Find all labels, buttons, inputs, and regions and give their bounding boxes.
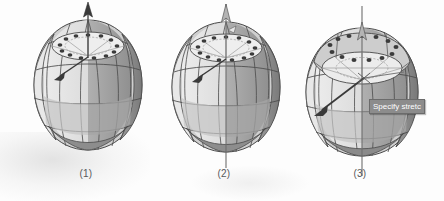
panel-2-caption: (2) (204, 168, 244, 179)
panel-1-caption: (1) (66, 168, 106, 179)
sphere-figure-2 (156, 0, 296, 175)
panel-3-caption: (3) (340, 168, 380, 179)
sphere-figure-1 (18, 0, 158, 170)
specify-stretch-tooltip: Specify stretc (369, 99, 425, 114)
sphere-figure-3 (292, 0, 438, 180)
illustration-canvas: (1) (0, 0, 444, 201)
